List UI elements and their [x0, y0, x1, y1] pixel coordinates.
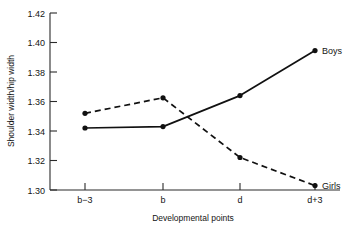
data-point-marker: [82, 125, 87, 130]
x-tick-label: b: [160, 195, 165, 205]
x-tick-label: d: [237, 195, 242, 205]
x-tick-label: b−3: [77, 195, 92, 205]
data-point-marker: [237, 93, 242, 98]
data-point-marker: [160, 95, 165, 100]
y-axis-tick-labels: 1.42 1.40 1.38 1.36 1.34 1.32 1.30: [27, 9, 45, 196]
girls-series-label: Girls: [322, 181, 341, 191]
data-point-marker: [312, 48, 317, 53]
series-boys: Boys: [82, 46, 342, 131]
x-tick-label: d+3: [307, 195, 322, 205]
x-axis-tick-labels: b−3 b d d+3: [77, 195, 322, 205]
x-axis-title: Developmental points: [152, 213, 234, 223]
y-tick-label: 1.42: [27, 9, 45, 19]
y-tick-label: 1.38: [27, 68, 45, 78]
y-tick-label: 1.30: [27, 186, 45, 196]
line-chart-canvas: 1.42 1.40 1.38 1.36 1.34 1.32 1.30 b−3 b…: [0, 0, 349, 228]
y-tick-label: 1.34: [27, 127, 45, 137]
y-axis-ticks: [50, 13, 57, 190]
y-axis-title: Shoulder width/hip width: [6, 55, 16, 147]
data-point-marker: [160, 124, 165, 129]
data-point-marker: [82, 111, 87, 116]
series-girls: Girls: [82, 95, 341, 191]
chart-figure: 1.42 1.40 1.38 1.36 1.34 1.32 1.30 b−3 b…: [0, 0, 349, 228]
y-tick-label: 1.36: [27, 97, 45, 107]
boys-series-label: Boys: [322, 46, 343, 56]
y-tick-label: 1.40: [27, 38, 45, 48]
boys-line: [85, 51, 315, 128]
y-tick-label: 1.32: [27, 156, 45, 166]
data-point-marker: [237, 155, 242, 160]
x-axis-ticks: [85, 183, 315, 190]
boys-markers: [82, 48, 317, 131]
data-point-marker: [312, 183, 317, 188]
